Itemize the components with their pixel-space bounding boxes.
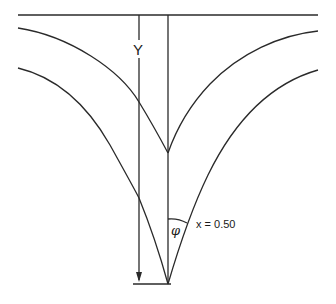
lower-left-curve	[18, 68, 168, 284]
depth-arrowhead-icon	[136, 272, 142, 282]
upper-left-curve	[18, 28, 168, 153]
cusp-geometry-diagram: Y φ x = 0.50	[0, 0, 336, 304]
parameter-label: x = 0.50	[196, 218, 235, 230]
lower-right-curve	[168, 70, 318, 284]
depth-label: Y	[133, 41, 143, 58]
angle-label: φ	[171, 223, 181, 238]
upper-right-curve	[168, 31, 318, 153]
